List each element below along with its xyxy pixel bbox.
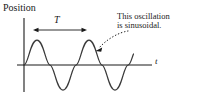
annotation-leader-line <box>100 31 129 48</box>
position-axis-label: Position <box>3 3 36 14</box>
annotation-arrowhead-icon <box>96 47 103 51</box>
sinusoidal-oscillation-figure: Position T t This oscillation is sinusoi… <box>0 0 197 100</box>
time-axis-label: t <box>155 57 158 67</box>
period-arrowhead-right-icon <box>82 28 88 32</box>
period-arrowhead-left-icon <box>33 28 39 32</box>
period-label: T <box>54 15 60 26</box>
annotation-callout: This oscillation is sinusoidal. <box>117 12 170 30</box>
annotation-line-2: is sinusoidal. <box>117 21 170 30</box>
